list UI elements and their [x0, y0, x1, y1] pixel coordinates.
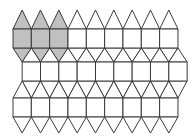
row-2-square — [169, 62, 187, 81]
row-2-square — [59, 62, 77, 81]
bottom-cap-triangle — [123, 117, 141, 133]
row-3-square — [13, 98, 31, 117]
row-3-square — [141, 98, 159, 117]
tiles-group — [13, 10, 187, 133]
top-cap-triangle — [160, 10, 178, 29]
top-cap-triangle — [86, 10, 104, 29]
row-1-square — [141, 29, 159, 48]
top-cap-triangle — [123, 10, 141, 29]
row-1-square — [50, 29, 68, 48]
row-1-square — [160, 29, 178, 48]
bottom-cap-triangle — [68, 117, 86, 133]
bottom-cap-triangle — [141, 117, 159, 133]
top-cap-triangle — [68, 10, 86, 29]
row-1-square — [123, 29, 141, 48]
row-3-square — [160, 98, 178, 117]
row-3-square — [105, 98, 123, 117]
row-1-square — [105, 29, 123, 48]
top-cap-triangle — [31, 10, 49, 29]
row-2-square — [77, 62, 95, 81]
row-3-square — [50, 98, 68, 117]
top-cap-triangle — [50, 10, 68, 29]
row-3-square — [86, 98, 104, 117]
row-2-square — [114, 62, 132, 81]
bottom-cap-triangle — [31, 117, 49, 133]
bottom-cap-triangle — [50, 117, 68, 133]
bottom-cap-triangle — [160, 117, 178, 133]
row-3-square — [123, 98, 141, 117]
row-2-square — [132, 62, 150, 81]
bottom-cap-triangle — [86, 117, 104, 133]
row-1-square — [13, 29, 31, 48]
row-3-square — [31, 98, 49, 117]
row-2-square — [22, 62, 40, 81]
top-cap-triangle — [141, 10, 159, 29]
row-2-square — [41, 62, 59, 81]
bottom-cap-triangle — [105, 117, 123, 133]
tessellation-diagram — [0, 0, 196, 140]
row-3-square — [68, 98, 86, 117]
row-2-square — [150, 62, 168, 81]
bottom-cap-triangle — [13, 117, 31, 133]
row-1-square — [68, 29, 86, 48]
top-cap-triangle — [105, 10, 123, 29]
row-2-square — [95, 62, 113, 81]
top-cap-triangle — [13, 10, 31, 29]
row-1-square — [31, 29, 49, 48]
row-1-square — [86, 29, 104, 48]
